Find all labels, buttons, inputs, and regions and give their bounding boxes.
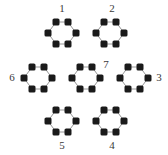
lattice-dot — [65, 107, 72, 114]
lattice-dot — [45, 118, 52, 125]
lattice-dot — [145, 75, 152, 82]
lattice-dot — [117, 75, 124, 82]
lattice-dot — [69, 75, 76, 82]
lattice-dot — [93, 30, 100, 37]
lattice-dot — [97, 75, 104, 82]
lattice-dot — [21, 75, 28, 82]
lattice-dot — [93, 118, 100, 125]
lattice-dot — [101, 107, 108, 114]
hex-ring-7 — [72, 67, 100, 89]
lattice-dot — [45, 30, 52, 37]
hex-edge-layer — [24, 22, 148, 132]
lattice-dot — [65, 19, 72, 26]
lattice-dot — [41, 64, 48, 71]
lattice-dot — [29, 64, 36, 71]
lattice-dot — [89, 64, 96, 71]
lattice-dot — [89, 86, 96, 93]
lattice-dot — [29, 86, 36, 93]
lattice-dot — [73, 118, 80, 125]
hex-label-7: 7 — [99, 59, 113, 70]
lattice-dot — [53, 107, 60, 114]
hex-ring-6 — [24, 67, 52, 89]
hex-label-6: 6 — [5, 72, 19, 83]
lattice-dot — [101, 129, 108, 136]
lattice-dot — [49, 75, 56, 82]
hex-dot-layer — [21, 19, 152, 136]
lattice-dot — [125, 86, 132, 93]
hex-ring-5 — [48, 110, 76, 132]
lattice-dot — [113, 129, 120, 136]
lattice-dot — [73, 30, 80, 37]
lattice-dot — [77, 86, 84, 93]
hex-ring-2 — [96, 22, 124, 44]
figure-canvas: 1234567 — [0, 0, 168, 155]
lattice-dot — [41, 86, 48, 93]
lattice-dot — [53, 129, 60, 136]
hex-ring-4 — [96, 110, 124, 132]
lattice-dot — [65, 41, 72, 48]
lattice-dot — [137, 86, 144, 93]
lattice-dot — [113, 19, 120, 26]
lattice-dot — [53, 19, 60, 26]
lattice-dot — [121, 30, 128, 37]
hex-ring-3 — [120, 67, 148, 89]
hex-ring-1 — [48, 22, 76, 44]
lattice-dot — [113, 41, 120, 48]
lattice-dot — [53, 41, 60, 48]
lattice-dot — [77, 64, 84, 71]
lattice-dot — [137, 64, 144, 71]
hex-label-3: 3 — [152, 72, 166, 83]
hex-label-1: 1 — [55, 3, 69, 14]
honeycomb-lattice — [0, 0, 168, 155]
lattice-dot — [121, 118, 128, 125]
lattice-dot — [65, 129, 72, 136]
lattice-dot — [125, 64, 132, 71]
hex-label-2: 2 — [105, 3, 119, 14]
hex-label-4: 4 — [105, 140, 119, 151]
lattice-dot — [101, 19, 108, 26]
lattice-dot — [101, 41, 108, 48]
lattice-dot — [113, 107, 120, 114]
hex-label-5: 5 — [55, 140, 69, 151]
